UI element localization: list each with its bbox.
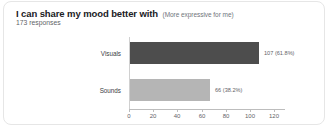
bar-category-label: Visuals [101,50,121,57]
bar-sounds[interactable] [130,79,210,101]
x-tick-label: 40 [174,113,181,119]
bar-chart: 0 20 40 60 80 100 120 Visuals 107 (61.8%… [4,32,325,124]
x-tick-mark [129,109,130,112]
page-title: I can share my mood better with (More ex… [16,6,234,20]
question-title-main: I can share my mood better with [16,8,158,19]
survey-result-card: I can share my mood better with (More ex… [3,1,325,125]
x-tick-label: 60 [199,113,206,119]
bar-value-label: 107 (61.8%) [264,50,294,56]
x-tick-mark [202,109,203,112]
x-tick-mark [177,109,178,112]
x-tick-mark [153,109,154,112]
bar-visuals[interactable] [130,42,259,64]
x-tick-mark [274,109,275,112]
bar-value-label: 66 (38.2%) [215,87,242,93]
x-tick-label: 0 [127,113,130,119]
x-tick-label: 80 [223,113,230,119]
x-tick-label: 100 [245,113,255,119]
response-count: 173 responses [16,19,61,26]
bar-category-label: Sounds [100,87,121,94]
x-tick-label: 20 [150,113,157,119]
x-tick-label: 120 [269,113,279,119]
question-title-subtitle: (More expressive for me) [163,11,234,18]
x-tick-mark [226,109,227,112]
x-tick-mark [250,109,251,112]
chart-plot-area: 0 20 40 60 80 100 120 Visuals 107 (61.8%… [129,37,284,109]
